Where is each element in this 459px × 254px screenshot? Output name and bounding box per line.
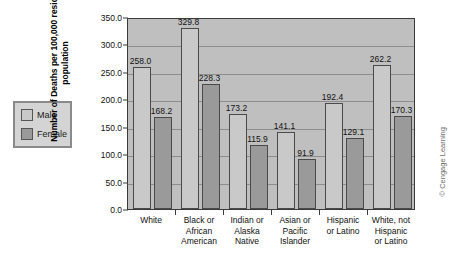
gridline	[128, 101, 414, 102]
x-axis-label-line: White	[140, 215, 162, 226]
bar-value-label: 258.0	[130, 57, 151, 66]
bar-male	[133, 67, 151, 209]
y-axis-tick-label: 200.0	[82, 96, 122, 105]
y-axis-tick-label: 350.0	[82, 14, 122, 23]
bar-female	[202, 84, 220, 209]
bar-value-label: 228.3	[199, 74, 220, 83]
y-axis-tick-mark	[123, 155, 128, 156]
x-axis-category-label: Asian orPacificIslander	[279, 215, 310, 247]
x-axis-category-label: Black orAfricanAmerican	[181, 215, 217, 247]
x-axis-label-line: Pacific	[279, 226, 310, 237]
y-axis-tick-label: 300.0	[82, 41, 122, 50]
x-axis-category-label: White	[140, 215, 162, 226]
x-axis-category-label: White, notHispanicor Latino	[372, 215, 410, 247]
x-axis-label-line: Asian or	[279, 215, 310, 226]
bar-value-label: 262.2	[370, 55, 391, 64]
bar-female	[394, 116, 412, 209]
x-axis-label-line: Islander	[279, 236, 310, 247]
bar-value-label: 115.9	[247, 135, 268, 144]
y-axis-tick-label: 250.0	[82, 69, 122, 78]
x-axis-label-line: Black or	[181, 215, 217, 226]
bar-value-label: 173.2	[226, 104, 247, 113]
bar-value-label: 168.2	[151, 107, 172, 116]
x-axis-label-line: or Latino	[372, 236, 410, 247]
bar-male	[373, 65, 391, 209]
x-axis-label-line: Native	[230, 236, 263, 247]
bar-male	[181, 28, 199, 209]
bar-value-label: 170.3	[391, 106, 412, 115]
x-axis-label-line: Hispanic	[326, 215, 359, 226]
x-axis-label-line: American	[181, 236, 217, 247]
y-axis-tick-mark	[123, 182, 128, 183]
bar-female	[346, 138, 364, 209]
x-axis-tick-mark	[271, 210, 272, 215]
x-axis-label-line: or Latino	[326, 226, 359, 237]
y-axis-tick-mark	[123, 210, 128, 211]
x-axis-tick-mark	[175, 210, 176, 215]
x-axis-tick-mark	[223, 210, 224, 215]
x-axis-label-line: Alaska	[230, 226, 263, 237]
y-axis-tick-mark	[123, 45, 128, 46]
bar-value-label: 141.1	[274, 122, 295, 131]
legend-swatch-female	[21, 128, 33, 140]
x-axis-label-line: White, not	[372, 215, 410, 226]
bar-female	[298, 159, 316, 209]
y-axis-tick-mark	[123, 18, 128, 19]
bar-chart-figure: Male Female Number of Deaths per 100,000…	[0, 0, 459, 254]
y-axis-tick-mark	[123, 127, 128, 128]
bar-male	[229, 114, 247, 209]
y-axis-tick-label: 0.0	[82, 206, 122, 215]
y-axis-tick-mark	[123, 100, 128, 101]
bar-value-label: 192.4	[322, 93, 343, 102]
y-axis-title-line-1: Number of Deaths per 100,000 resident	[49, 0, 60, 142]
gridline	[128, 74, 414, 75]
y-axis-tick-label: 150.0	[82, 123, 122, 132]
y-axis-tick-label: 100.0	[82, 151, 122, 160]
x-axis-label-line: Indian or	[230, 215, 263, 226]
x-axis-label-line: African	[181, 226, 217, 237]
y-axis-tick-mark	[123, 72, 128, 73]
bar-male	[277, 132, 295, 209]
y-axis-title-line-2: population	[60, 41, 71, 84]
x-axis-label-line: Hispanic	[372, 226, 410, 237]
bar-female	[154, 117, 172, 209]
bar-female	[250, 145, 268, 209]
x-axis-category-label: Hispanicor Latino	[326, 215, 359, 236]
y-axis-title: Number of Deaths per 100,000 resident po…	[46, 0, 74, 146]
bar-value-label: 129.1	[343, 128, 364, 137]
bar-value-label: 91.9	[297, 149, 314, 158]
bar-value-label: 329.8	[178, 18, 199, 27]
x-axis-tick-mark	[319, 210, 320, 215]
credit-text: © Cengage Learning	[439, 117, 447, 207]
gridline	[128, 46, 414, 47]
x-axis-tick-mark	[367, 210, 368, 215]
legend-swatch-male	[21, 109, 33, 121]
x-axis-category-label: Indian orAlaskaNative	[230, 215, 263, 247]
bar-male	[325, 103, 343, 209]
y-axis-tick-label: 50.0	[82, 178, 122, 187]
